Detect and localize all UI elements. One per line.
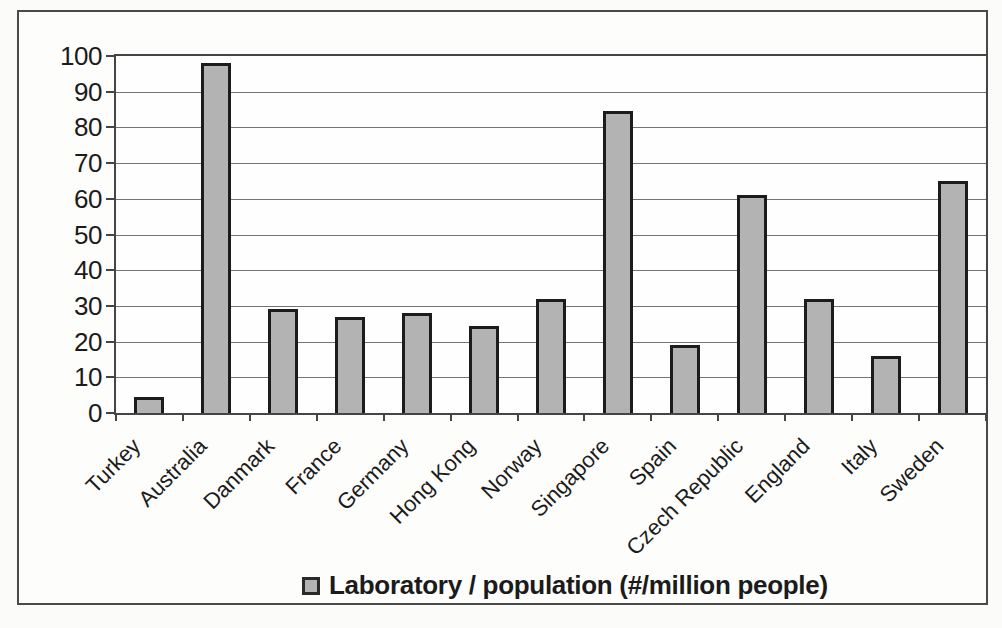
x-axis-label-england: England: [741, 434, 815, 508]
y-tick-30: [106, 305, 114, 307]
x-tick-8: [650, 413, 652, 421]
bar-chart-figure: 0102030405060708090100 TurkeyAustraliaDa…: [0, 0, 1002, 628]
y-axis-label-20: 20: [30, 328, 102, 356]
bar-germany: [402, 313, 432, 413]
y-tick-60: [106, 198, 114, 200]
gridline-70: [116, 163, 986, 164]
y-axis-label-10: 10: [30, 363, 102, 391]
gridline-50: [116, 235, 986, 236]
y-axis-label-80: 80: [30, 113, 102, 141]
x-tick-7: [583, 413, 585, 421]
x-axis-label-czech-republic: Czech Republic: [622, 434, 748, 560]
y-tick-0: [106, 412, 114, 414]
y-axis-label-70: 70: [30, 149, 102, 177]
y-axis-label-90: 90: [30, 78, 102, 106]
bar-spain: [670, 345, 700, 413]
y-axis-label-50: 50: [30, 221, 102, 249]
x-tick-13: [985, 413, 987, 421]
bar-norway: [536, 299, 566, 413]
x-axis-label-spain: Spain: [624, 434, 681, 491]
x-tick-12: [918, 413, 920, 421]
y-axis-label-60: 60: [30, 185, 102, 213]
x-tick-1: [182, 413, 184, 421]
y-axis-label-0: 0: [30, 399, 102, 427]
bar-italy: [871, 356, 901, 413]
y-tick-50: [106, 234, 114, 236]
x-axis-label-danmark: Danmark: [199, 434, 279, 514]
legend: Laboratory / population (#/million peopl…: [302, 570, 828, 601]
legend-label: Laboratory / population (#/million peopl…: [329, 570, 828, 601]
bar-hong-kong: [469, 326, 499, 413]
x-tick-5: [450, 413, 452, 421]
bar-england: [804, 299, 834, 413]
bar-turkey: [134, 397, 164, 413]
y-axis-label-40: 40: [30, 256, 102, 284]
bar-australia: [201, 63, 231, 413]
y-axis-label-30: 30: [30, 292, 102, 320]
x-tick-10: [784, 413, 786, 421]
x-axis-label-turkey: Turkey: [81, 434, 145, 498]
x-tick-3: [316, 413, 318, 421]
bar-danmark: [268, 309, 298, 413]
legend-marker-square: [302, 577, 320, 595]
x-tick-9: [717, 413, 719, 421]
y-tick-90: [106, 91, 114, 93]
plot-area: [114, 54, 988, 415]
x-tick-4: [383, 413, 385, 421]
bar-sweden: [938, 181, 968, 413]
y-tick-10: [106, 376, 114, 378]
y-axis-label-100: 100: [30, 42, 102, 70]
gridline-60: [116, 199, 986, 200]
bar-czech-republic: [737, 195, 767, 413]
x-axis-label-sweden: Sweden: [876, 434, 949, 507]
y-tick-70: [106, 162, 114, 164]
figure-border: 0102030405060708090100 TurkeyAustraliaDa…: [17, 10, 988, 605]
y-tick-20: [106, 341, 114, 343]
x-axis-label-france: France: [281, 434, 346, 499]
x-tick-0: [115, 413, 117, 421]
gridline-80: [116, 127, 986, 128]
gridline-90: [116, 92, 986, 93]
x-tick-2: [249, 413, 251, 421]
x-tick-11: [851, 413, 853, 421]
x-axis-label-italy: Italy: [836, 434, 882, 480]
x-axis-label-australia: Australia: [134, 434, 211, 511]
bar-singapore: [603, 111, 633, 413]
y-tick-40: [106, 269, 114, 271]
y-tick-80: [106, 126, 114, 128]
gridline-40: [116, 270, 986, 271]
x-tick-6: [517, 413, 519, 421]
y-tick-100: [106, 55, 114, 57]
bar-france: [335, 317, 365, 413]
